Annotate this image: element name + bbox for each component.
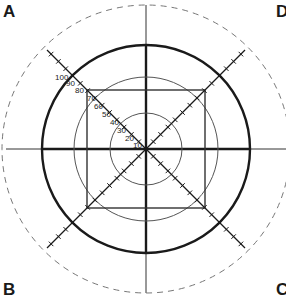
scale-label-10: 10 <box>133 141 142 150</box>
corner-label-b: B <box>3 281 15 298</box>
corner-label-a: A <box>3 3 15 20</box>
scale-labels: 100 90 80 70 60 50 40 30 20 10 <box>55 73 142 150</box>
corner-label-d: D <box>276 3 286 20</box>
diagram-canvas: 100 90 80 70 60 50 40 30 20 10 <box>0 0 286 300</box>
scale-label-80: 80 <box>75 86 84 95</box>
polar-grid-diagram: 100 90 80 70 60 50 40 30 20 10 A D B C <box>0 0 286 300</box>
corner-label-c: C <box>276 281 286 298</box>
